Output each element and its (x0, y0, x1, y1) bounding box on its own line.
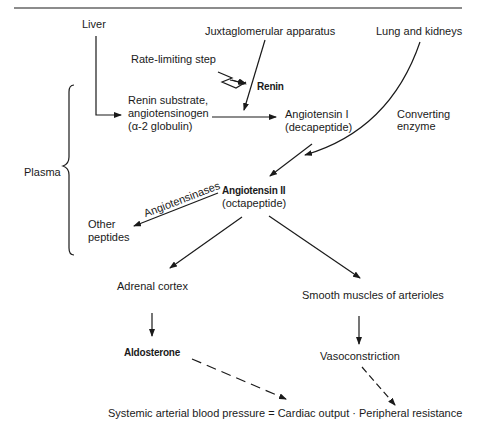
arrow-aldosterone-to-bp (192, 359, 286, 399)
node-ang2-l2: (octapeptide) (222, 197, 286, 210)
node-other-l1: Other (88, 218, 116, 231)
node-substrate-l1: Renin substrate, (128, 94, 208, 107)
arrow-jga-to-reaction (244, 40, 265, 110)
arrow-liver-to-substrate (96, 36, 121, 115)
equation-blood-pressure: Systemic arterial blood pressure = Cardi… (108, 407, 462, 420)
node-ang1-l1: Angiotensin I (285, 108, 349, 121)
node-aldosterone: Aldosterone (124, 346, 180, 359)
arrow-to-adrenal (170, 217, 242, 268)
node-jga: Juxtaglomerular apparatus (205, 25, 335, 38)
node-lung-kidneys: Lung and kidneys (376, 25, 462, 38)
node-smooth-muscle: Smooth muscles of arterioles (302, 289, 444, 302)
node-substrate-l3: (α-2 globulin) (128, 120, 192, 133)
label-plasma: Plasma (24, 166, 61, 179)
node-ang1-l2: (decapeptide) (285, 121, 352, 134)
label-rate-limiting: Rate-limiting step (131, 53, 216, 66)
arrow-ang1-to-ang2 (270, 144, 312, 176)
node-ang2-l1: Angiotensin II (222, 184, 285, 197)
arrow-converting-enzyme (305, 42, 420, 155)
plasma-brace (63, 85, 74, 255)
node-vasoconstriction: Vasoconstriction (320, 350, 400, 363)
arrow-vaso-to-bp (362, 367, 395, 405)
node-renin: Renin (257, 80, 284, 93)
label-converting-l2: enzyme (397, 120, 436, 133)
node-other-l2: peptides (88, 231, 130, 244)
node-adrenal: Adrenal cortex (117, 280, 188, 293)
arrow-to-smooth-muscle (269, 216, 360, 278)
node-liver: Liver (82, 18, 106, 31)
diagram-connectors (0, 0, 486, 426)
node-substrate-l2: angiotensinogen (128, 107, 209, 120)
